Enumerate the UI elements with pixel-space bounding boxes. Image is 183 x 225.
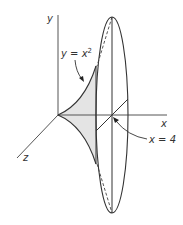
curve-label: y = x2: [60, 47, 92, 59]
plane-label-arrow: [116, 121, 147, 139]
y-axis-label: y: [46, 13, 54, 24]
curve-label-arrow: [75, 60, 82, 79]
solid-of-revolution-diagram: y x z y = x2 x = 4: [0, 0, 183, 225]
curve-label-arrowhead-icon: [79, 76, 84, 82]
disk-ellipse-left-upper: [96, 17, 112, 115]
curve-label-exponent: 2: [88, 47, 92, 55]
x-axis-label: x: [160, 118, 167, 129]
plane-label-arrowhead-icon: [113, 117, 119, 123]
hidden-edge-top: [97, 17, 112, 66]
hidden-edge-bottom: [97, 164, 112, 213]
disk-ellipse-left-lower: [96, 115, 112, 213]
z-axis-label: z: [22, 152, 29, 163]
plane-label: x = 4: [148, 134, 176, 145]
curve-label-text: y = x: [60, 48, 88, 59]
